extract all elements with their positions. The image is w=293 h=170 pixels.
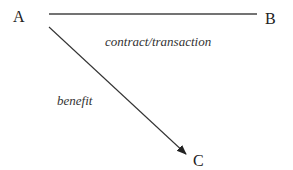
diagram-canvas: A B C contract/transaction benefit xyxy=(0,0,293,170)
edge-label-benefit: benefit xyxy=(57,94,92,107)
diagram-edges xyxy=(0,0,293,170)
node-a-label: A xyxy=(13,9,25,25)
edge-label-contract-transaction: contract/transaction xyxy=(105,35,211,48)
node-b-label: B xyxy=(265,11,276,27)
node-c-label: C xyxy=(193,153,204,169)
